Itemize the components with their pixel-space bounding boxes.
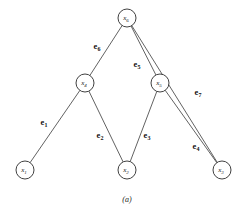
graph-edge-e1 [30, 90, 80, 162]
graph-node-x1: x1 [16, 161, 34, 179]
graph-diagram: x6x4x5x1x2x3 e1e2e3e4e5e6e7 (a) [0, 0, 251, 216]
edges-layer [30, 26, 217, 163]
edge-label-e3: e3 [144, 130, 151, 141]
graph-edge-e3 [130, 91, 157, 161]
edge-label-e1: e1 [41, 117, 48, 128]
figure-caption: (a) [122, 195, 132, 204]
edge-labels-layer: e1e2e3e4e5e6e7 [41, 41, 202, 152]
edge-label-e4: e4 [193, 141, 200, 152]
edge-label-e5: e5 [134, 59, 141, 70]
graph-edge-e7 [132, 26, 217, 163]
graph-node-x5: x5 [151, 74, 169, 92]
graph-node-x3: x3 [213, 161, 231, 179]
edge-label-e6: e6 [94, 41, 101, 52]
graph-edge-e2 [89, 91, 123, 162]
graph-node-x6: x6 [118, 9, 136, 27]
edge-label-e7: e7 [195, 87, 202, 98]
graph-node-x2: x2 [118, 161, 136, 179]
graph-edge-e4 [165, 90, 217, 162]
graph-node-x4: x4 [76, 74, 94, 92]
edge-label-e2: e2 [97, 130, 104, 141]
figure-container: x6x4x5x1x2x3 e1e2e3e4e5e6e7 (a) [0, 0, 251, 216]
